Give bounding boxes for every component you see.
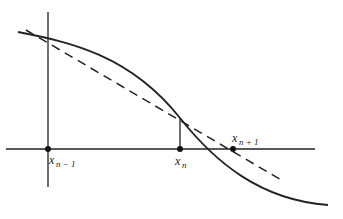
label-x-prev: x n − 1 [48,153,76,169]
secant-method-diagram: x n − 1 x n x n + 1 [0,0,343,219]
svg-text:n − 1: n − 1 [56,159,76,169]
svg-text:x: x [48,153,55,167]
label-x-curr: x n [174,154,187,170]
function-curve [18,32,328,205]
label-x-next: x n + 1 [231,131,259,147]
point-x-next [230,146,236,152]
svg-text:n: n [182,160,187,170]
svg-text:x: x [231,131,238,145]
svg-text:n + 1: n + 1 [239,137,259,147]
svg-text:x: x [174,154,181,168]
point-x-curr [177,146,183,152]
point-x-prev [45,146,51,152]
